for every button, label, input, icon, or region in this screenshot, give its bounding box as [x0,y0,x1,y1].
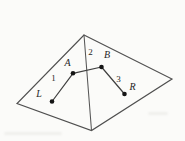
point-dot-B [99,65,104,70]
segment-B-R [102,67,125,94]
scan-artifact [4,132,62,135]
segment-number-1: 1 [51,73,56,83]
point-label-R: R [128,81,135,92]
point-label-B: B [104,49,110,60]
segment-number-2: 2 [88,47,93,57]
scan-artifact [148,112,168,115]
outline-polygon [17,35,172,131]
point-dot-A [71,71,76,76]
point-label-A: A [63,57,71,68]
point-dot-L [50,99,55,104]
figure-svg: ABLR123 [0,0,185,141]
geometry-figure: ABLR123 [0,0,185,141]
segment-number-3: 3 [116,74,121,84]
point-label-L: L [35,88,42,99]
point-dot-R [122,92,127,97]
